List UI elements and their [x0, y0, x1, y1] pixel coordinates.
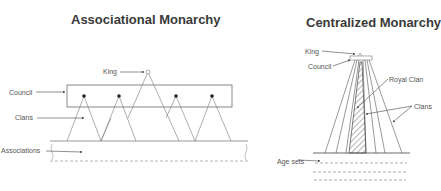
centralized-monarchy-diagram: [298, 51, 412, 180]
council-box: [67, 85, 232, 107]
council-member-dots: [82, 94, 214, 98]
associational-monarchy-diagram: [36, 70, 248, 161]
diagram-canvas: [0, 0, 441, 191]
